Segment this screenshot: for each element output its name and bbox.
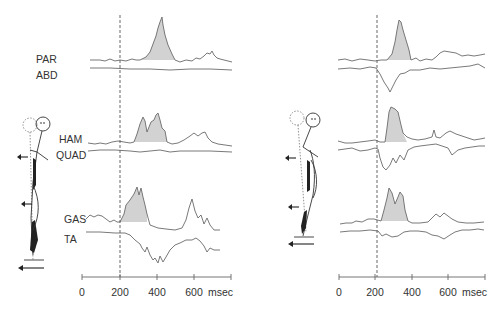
right-stick-figure bbox=[285, 111, 320, 247]
right-par-trace bbox=[338, 20, 485, 61]
right-tick-600: 600 bbox=[439, 286, 457, 298]
right-ham-trace bbox=[338, 107, 485, 143]
thigh-muscle bbox=[307, 160, 310, 192]
quad-trace bbox=[88, 150, 232, 152]
right-gas-trace bbox=[340, 188, 484, 224]
left-tick-0: 0 bbox=[79, 286, 85, 298]
right-ta-trace bbox=[340, 229, 484, 239]
label-ham: HAM bbox=[59, 133, 82, 145]
left-tick-600: 600 bbox=[185, 286, 203, 298]
right-par-burst-fill bbox=[387, 20, 411, 60]
right-time-axis: 0 200 400 600 msec bbox=[336, 274, 487, 298]
left-tick-400: 400 bbox=[148, 286, 166, 298]
right-tick-400: 400 bbox=[403, 286, 421, 298]
right-arrow-platform bbox=[288, 241, 314, 247]
right-ham-burst-fill bbox=[385, 107, 407, 142]
head-icon bbox=[306, 113, 320, 127]
abd-trace bbox=[90, 68, 232, 70]
left-axis-unit: msec bbox=[208, 286, 233, 298]
left-arrow-platform bbox=[18, 265, 44, 271]
left-arrow-hip bbox=[17, 154, 28, 160]
right-abd-trace bbox=[338, 64, 485, 92]
label-quad: QUAD bbox=[56, 149, 87, 161]
head-icon bbox=[36, 117, 50, 131]
label-abd: ABD bbox=[36, 69, 58, 81]
gas-burst-fill bbox=[120, 187, 147, 222]
right-arrow-knee bbox=[288, 204, 299, 210]
left-arrow-knee bbox=[21, 201, 32, 207]
left-time-axis: 0 200 400 600 msec bbox=[79, 274, 233, 298]
left-panel: PAR ABD HAM QUAD GAS TA 0 bbox=[17, 15, 233, 298]
label-gas: GAS bbox=[64, 213, 86, 225]
right-quad-trace bbox=[338, 144, 485, 170]
ta-trace bbox=[86, 232, 220, 263]
left-stick-figure bbox=[17, 117, 50, 271]
gas-trace bbox=[86, 187, 220, 230]
right-arrow-hip bbox=[285, 155, 296, 161]
right-tick-0: 0 bbox=[336, 286, 342, 298]
left-tick-200: 200 bbox=[111, 286, 129, 298]
par-burst-fill bbox=[140, 17, 175, 60]
emg-figure: PAR ABD HAM QUAD GAS TA 0 bbox=[0, 0, 502, 317]
right-tick-200: 200 bbox=[366, 286, 384, 298]
displaced-head-outline bbox=[290, 111, 304, 125]
label-ta: TA bbox=[64, 233, 77, 245]
label-par: PAR bbox=[36, 53, 57, 65]
displaced-head-outline bbox=[23, 118, 37, 132]
right-axis-unit: msec bbox=[462, 286, 487, 298]
right-panel: 0 200 400 600 msec bbox=[285, 15, 487, 298]
